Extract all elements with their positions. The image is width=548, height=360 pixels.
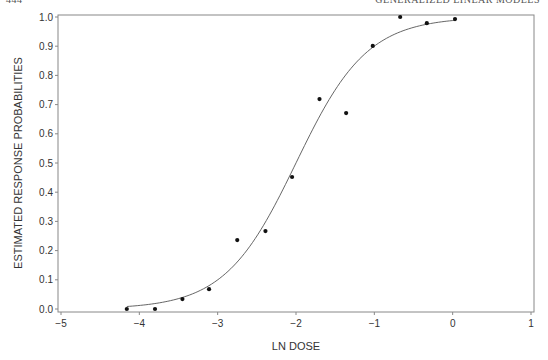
y-tick-label: 0.5 <box>39 158 53 169</box>
x-axis-label: LN DOSE <box>272 340 320 352</box>
data-points <box>125 15 457 311</box>
data-point <box>317 97 321 101</box>
y-tick-label: 1.0 <box>39 12 53 23</box>
data-point <box>180 297 184 301</box>
x-tick-label: −5 <box>55 318 67 329</box>
y-tick-label: 0.7 <box>39 99 53 110</box>
y-tick-label: 0.8 <box>39 70 53 81</box>
y-tick-label: 0.4 <box>39 187 53 198</box>
y-tick-label: 0.0 <box>39 304 53 315</box>
data-point <box>398 15 402 19</box>
data-point <box>371 44 375 48</box>
y-tick-label: 0.1 <box>39 274 53 285</box>
y-tick-label: 0.9 <box>39 41 53 52</box>
y-axis-label: ESTIMATED RESPONSE PROBABILITIES <box>12 57 24 269</box>
logistic-dose-response-chart: 0.00.10.20.30.40.50.60.70.80.91.0 −5−4−3… <box>0 0 548 360</box>
x-tick-label: −1 <box>369 318 381 329</box>
data-point <box>453 17 457 21</box>
data-point <box>153 307 157 311</box>
y-tick-label: 0.6 <box>39 128 53 139</box>
y-axis: 0.00.10.20.30.40.50.60.70.80.91.0 <box>39 12 58 315</box>
data-point <box>235 238 239 242</box>
x-tick-label: −3 <box>212 318 224 329</box>
data-point <box>290 175 294 179</box>
x-axis: −5−4−3−2−101 <box>55 312 534 329</box>
data-point <box>263 229 267 233</box>
x-tick-label: −2 <box>290 318 302 329</box>
data-point <box>425 21 429 25</box>
x-tick-label: −4 <box>134 318 146 329</box>
fitted-curve <box>127 20 455 306</box>
x-tick-label: 1 <box>528 318 534 329</box>
x-tick-label: 0 <box>450 318 456 329</box>
data-point <box>125 307 129 311</box>
data-point <box>344 111 348 115</box>
data-point <box>207 287 211 291</box>
y-tick-label: 0.3 <box>39 216 53 227</box>
y-tick-label: 0.2 <box>39 245 53 256</box>
